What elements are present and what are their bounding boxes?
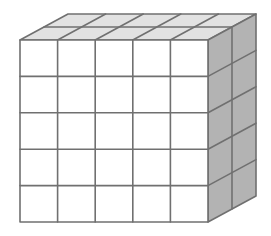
cuboid-diagram (0, 0, 271, 236)
right-face (208, 14, 256, 222)
front-face-outline (20, 40, 208, 222)
cuboid-drawing (0, 0, 271, 236)
front-face (20, 40, 208, 222)
